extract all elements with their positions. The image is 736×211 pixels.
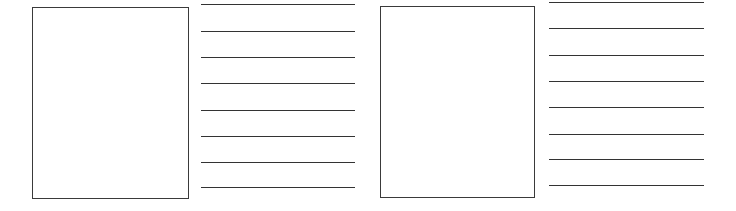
drawing-box [380,6,535,198]
writing-line [549,185,704,186]
writing-line [549,81,704,82]
writing-line [201,83,355,84]
writing-line [201,57,355,58]
worksheet-page [0,0,736,211]
writing-line [201,162,355,163]
writing-line [549,107,704,108]
writing-line [549,134,704,135]
writing-line [201,187,355,188]
writing-line [549,2,704,3]
writing-line [201,4,355,5]
writing-line [201,31,355,32]
writing-line [201,136,355,137]
writing-line [549,159,704,160]
writing-line [549,55,704,56]
writing-line [549,28,704,29]
drawing-box [32,7,189,199]
writing-line [201,110,355,111]
